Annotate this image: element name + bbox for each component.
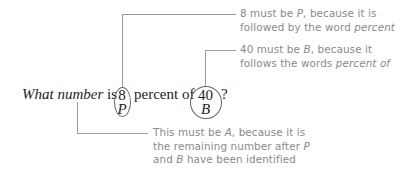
question-mark: ? (221, 86, 228, 103)
note-text: have been identified (184, 153, 296, 165)
leader-line-p-vertical (122, 14, 123, 88)
note-text: This must be (153, 126, 225, 138)
question-sentence: What number is (22, 86, 117, 103)
percent-stack: 8 P (114, 88, 130, 116)
note-text: follows the words (240, 57, 336, 69)
note-text: , because it is (232, 126, 305, 138)
percent-value: 8 (114, 88, 130, 102)
note-text: followed by the word (240, 21, 354, 33)
question-middle: percent of (134, 86, 194, 103)
question-unknown-a: What number (22, 86, 103, 102)
leader-line-a-vertical (77, 102, 78, 134)
percent-label: P (114, 102, 130, 116)
note-italic: B (176, 153, 183, 165)
note-text: , because it is (303, 7, 376, 19)
leader-line-p-horizontal (122, 14, 236, 15)
annotation-p: 8 must be P, because it is followed by t… (240, 7, 395, 34)
note-italic: B (303, 43, 310, 55)
base-stack: 40 B (190, 88, 221, 116)
note-italic: P (304, 140, 310, 152)
leader-line-b-vertical (205, 50, 206, 87)
base-label: B (190, 102, 221, 116)
leader-line-b-horizontal (205, 50, 236, 51)
annotation-a: This must be A, because it is the remain… (153, 126, 310, 167)
note-text: 8 must be (240, 7, 297, 19)
note-text: 40 must be (240, 43, 303, 55)
note-italic: percent (354, 21, 395, 33)
note-text: and (153, 153, 176, 165)
annotation-b: 40 must be B, because it follows the wor… (240, 43, 390, 70)
note-text: the remaining number after (153, 140, 304, 152)
note-italic: A (225, 126, 232, 138)
question-word-percent-of: percent of (134, 86, 194, 102)
note-italic: percent of (336, 57, 390, 69)
note-text: , because it (311, 43, 373, 55)
base-value: 40 (190, 88, 221, 102)
leader-line-a-horizontal (77, 133, 148, 134)
